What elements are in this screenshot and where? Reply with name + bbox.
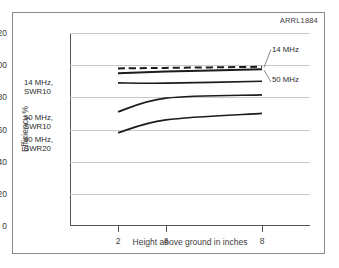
x-tick-4 — [166, 226, 167, 232]
y-tick-label-80: 80 — [0, 92, 7, 102]
y-tick-label-120: 120 — [0, 28, 7, 38]
series-line-14-mhz-swr10 — [118, 81, 262, 83]
series-line-50-mhz-swr10 — [118, 95, 262, 112]
series-line-50-mhz-swr20 — [118, 113, 262, 132]
y-tick-label-60: 60 — [0, 125, 7, 135]
annotation-14-mhz-swr10: 14 MHz, SWR10 — [24, 78, 53, 96]
plot-area: 020406080100120 248 — [70, 33, 310, 226]
x-axis-title: Height above ground in inches — [133, 237, 248, 247]
x-tick-8 — [262, 226, 263, 232]
x-tick-2 — [118, 226, 119, 232]
series-line-50-mhz — [118, 69, 262, 73]
efficiency-line-chart: Efficiency % Height above ground in inch… — [13, 13, 326, 255]
y-tick-label-100: 100 — [0, 60, 7, 70]
x-tick-label-2: 2 — [116, 236, 121, 246]
leader-line — [264, 49, 271, 67]
annotation-50-mhz: 50 MHz — [272, 75, 299, 84]
x-tick-label-4: 4 — [164, 236, 169, 246]
series-line-14-mhz — [118, 67, 262, 69]
y-tick-label-20: 20 — [0, 189, 7, 199]
y-tick-label-0: 0 — [0, 221, 7, 231]
leader-line — [264, 70, 271, 82]
chart-frame: ARRL1884 Efficiency % Height above groun… — [12, 12, 325, 254]
annotation-50-mhz-swr20: 50 MHz, SWR20 — [24, 135, 53, 153]
series-lines — [70, 33, 310, 226]
y-tick-label-40: 40 — [0, 157, 7, 167]
annotation-50-mhz-swr10: 50 MHz, SWR10 — [24, 113, 53, 131]
x-tick-label-8: 8 — [260, 236, 265, 246]
annotation-14-mhz: 14 MHz — [272, 45, 299, 54]
